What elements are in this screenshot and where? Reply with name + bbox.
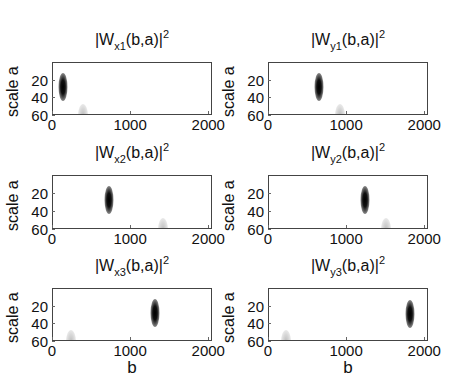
y-tick-mark [52, 80, 55, 81]
energy-faint-peak [381, 218, 391, 230]
y-tick-mark [52, 323, 55, 324]
title-rest: (b,a)| [126, 257, 163, 274]
y-tick-label: 40 [234, 204, 264, 219]
title-main: |W [311, 257, 330, 274]
y-axis-label: scale a [220, 180, 238, 231]
title-main: |W [311, 144, 330, 161]
x-tick-label: 0 [48, 231, 56, 246]
y-tick-mark [268, 80, 271, 81]
x-tick-label: 1000 [329, 231, 362, 246]
title-rest: (b,a)| [342, 257, 379, 274]
x-tick-mark [52, 111, 53, 114]
x-tick-mark [346, 337, 347, 340]
x-tick-label: 1000 [113, 117, 146, 132]
plot-area [268, 62, 428, 115]
x-tick-mark [130, 337, 131, 340]
title-subscript: y1 [330, 40, 342, 52]
x-tick-label: 1000 [329, 343, 362, 358]
y-tick-label: 40 [18, 90, 48, 105]
title-superscript: 2 [379, 28, 385, 40]
y-tick-mark [52, 306, 55, 307]
energy-faint-peak [66, 330, 76, 341]
y-tick-label: 20 [18, 298, 48, 313]
x-tick-mark [208, 111, 209, 114]
subplot-title: |Wx3(b,a)|2 [95, 254, 169, 278]
x-tick-label: 2000 [192, 231, 225, 246]
title-main: |W [95, 144, 114, 161]
y-tick-label: 60 [234, 222, 264, 237]
energy-peak [405, 300, 414, 328]
y-tick-label: 60 [18, 222, 48, 237]
y-axis-label: scale a [4, 180, 22, 231]
y-tick-mark [268, 193, 271, 194]
y-axis-label: scale a [4, 66, 22, 117]
plot-area [52, 62, 212, 115]
y-tick-label: 20 [234, 298, 264, 313]
x-axis-label: b [127, 358, 136, 378]
y-tick-label: 20 [18, 186, 48, 201]
subplot-title: |Wy1(b,a)|2 [311, 28, 385, 52]
y-tick-label: 40 [18, 204, 48, 219]
y-tick-label: 20 [18, 72, 48, 87]
title-superscript: 2 [379, 254, 385, 266]
x-tick-mark [52, 337, 53, 340]
plot-area [268, 175, 428, 229]
y-axis-label: scale a [220, 66, 238, 117]
x-tick-mark [208, 337, 209, 340]
x-tick-mark [130, 111, 131, 114]
x-tick-label: 2000 [408, 117, 441, 132]
x-tick-mark [268, 111, 269, 114]
y-tick-label: 60 [18, 108, 48, 123]
title-rest: (b,a)| [126, 31, 163, 48]
plot-area [268, 288, 428, 341]
x-tick-label: 0 [264, 117, 272, 132]
x-tick-label: 2000 [408, 343, 441, 358]
x-axis-label: b [343, 358, 352, 378]
y-tick-mark [268, 306, 271, 307]
energy-faint-peak [158, 218, 168, 230]
energy-peak [361, 186, 370, 214]
title-rest: (b,a)| [342, 144, 379, 161]
title-subscript: y3 [330, 266, 342, 278]
y-tick-label: 40 [18, 316, 48, 331]
x-tick-mark [346, 225, 347, 228]
title-main: |W [95, 257, 114, 274]
y-tick-label: 40 [234, 90, 264, 105]
y-tick-label: 60 [18, 334, 48, 349]
title-superscript: 2 [379, 141, 385, 153]
x-tick-label: 0 [264, 343, 272, 358]
y-tick-label: 20 [234, 72, 264, 87]
x-tick-mark [268, 225, 269, 228]
y-tick-mark [52, 211, 55, 212]
plot-area [52, 288, 212, 341]
title-subscript: y2 [330, 153, 342, 165]
subplot-title: |Wy3(b,a)|2 [311, 254, 385, 278]
plot-area [52, 175, 212, 229]
energy-peak [59, 73, 68, 101]
title-subscript: x3 [114, 266, 126, 278]
title-main: |W [311, 31, 330, 48]
energy-faint-peak [281, 330, 291, 341]
y-tick-mark [268, 97, 271, 98]
x-tick-mark [424, 337, 425, 340]
subplot-title: |Wx2(b,a)|2 [95, 141, 169, 165]
title-superscript: 2 [163, 141, 169, 153]
x-tick-mark [424, 225, 425, 228]
y-tick-label: 60 [234, 334, 264, 349]
x-tick-label: 2000 [192, 117, 225, 132]
y-tick-mark [268, 211, 271, 212]
y-tick-label: 60 [234, 108, 264, 123]
energy-faint-peak [78, 104, 88, 115]
x-tick-mark [208, 225, 209, 228]
subplot-title: |Wy2(b,a)|2 [311, 141, 385, 165]
title-superscript: 2 [163, 28, 169, 40]
title-subscript: x1 [114, 40, 126, 52]
title-superscript: 2 [163, 254, 169, 266]
x-tick-mark [424, 111, 425, 114]
y-tick-mark [268, 323, 271, 324]
y-tick-label: 40 [234, 316, 264, 331]
x-tick-label: 1000 [113, 343, 146, 358]
y-tick-label: 20 [234, 186, 264, 201]
energy-peak [105, 186, 114, 214]
energy-peak [315, 73, 324, 101]
